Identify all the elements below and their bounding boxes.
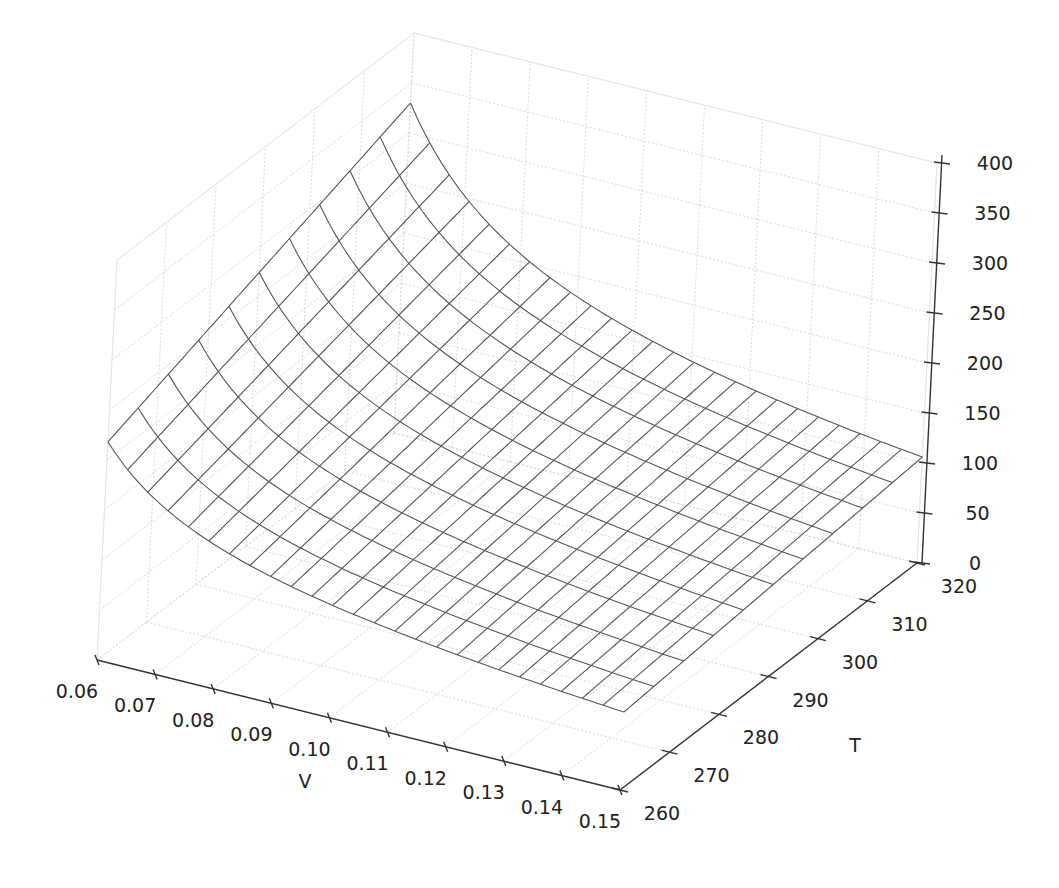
- y-tick: [662, 750, 678, 754]
- x-axis-label: V: [299, 770, 312, 792]
- z-tick-label: 250: [969, 302, 1005, 324]
- y-tick-label: 300: [842, 651, 878, 673]
- sidewall-gridline: [115, 83, 412, 310]
- y-tick: [860, 599, 876, 603]
- z-tick-label: 150: [964, 402, 1000, 424]
- surface-plot-3d: 0.060.070.080.090.100.110.120.130.140.15…: [0, 0, 1059, 888]
- z-tick: [919, 462, 935, 464]
- z-tick-label: 350: [974, 202, 1010, 224]
- z-tick-label: 400: [977, 152, 1013, 174]
- z-tick-label: 0: [969, 552, 981, 574]
- y-tick: [711, 712, 727, 716]
- z-tick: [917, 512, 933, 514]
- wire-constant-t: [199, 340, 714, 635]
- x-tick-label: 0.14: [521, 796, 563, 818]
- wire-constant-t: [229, 306, 743, 610]
- wireframe-surface: [108, 103, 922, 712]
- z-tick-label: 200: [967, 352, 1003, 374]
- z-tick: [929, 262, 945, 264]
- z-tick: [932, 212, 948, 214]
- floor-gridline: [562, 549, 859, 776]
- x-tick-label: 0.12: [405, 767, 447, 789]
- floor-gridline: [345, 471, 868, 601]
- backwall-gridline: [626, 91, 646, 491]
- y-tick-label: 270: [693, 764, 729, 786]
- floor-gridline: [196, 584, 719, 714]
- backwall-gridline: [399, 333, 922, 463]
- y-tick-label: 310: [891, 613, 927, 635]
- backwall-gridline: [510, 62, 530, 462]
- backwall-gridline: [743, 120, 763, 520]
- z-tick: [924, 362, 940, 364]
- x-tick-label: 0.09: [230, 723, 272, 745]
- y-tick: [761, 675, 777, 679]
- backwall-gridline: [402, 283, 925, 413]
- backwall-gridline: [801, 134, 821, 534]
- backwall-gridline: [397, 383, 920, 513]
- floor-gridline: [147, 622, 670, 752]
- sidewall-gridline: [345, 71, 365, 471]
- pane-edge: [97, 260, 117, 660]
- pane-edge: [117, 33, 414, 260]
- y-tick: [810, 637, 826, 641]
- floor-gridline: [446, 520, 743, 747]
- x-tick-label: 0.10: [288, 738, 330, 760]
- z-tick: [934, 162, 950, 164]
- floor-gridline: [271, 476, 568, 703]
- sidewall-gridline: [246, 147, 266, 547]
- wire-constant-t: [259, 272, 773, 584]
- floor-gridline: [329, 491, 626, 718]
- x-tick-label: 0.11: [346, 752, 388, 774]
- z-axis-line: [922, 155, 942, 563]
- sidewall-gridline: [147, 222, 167, 622]
- z-tick-label: 50: [965, 502, 989, 524]
- y-tick-label: 320: [941, 575, 977, 597]
- floor-gridline: [213, 462, 510, 689]
- backwall-gridline: [452, 47, 472, 447]
- backwall-gridline: [407, 183, 930, 313]
- z-tick: [927, 312, 943, 314]
- y-tick-label: 280: [743, 726, 779, 748]
- backwall-gridline: [409, 133, 932, 263]
- y-tick-label: 260: [644, 802, 680, 824]
- pane-edge: [414, 33, 937, 163]
- y-axis-label: T: [848, 734, 861, 756]
- x-tick-label: 0.07: [114, 694, 156, 716]
- z-tick-label: 300: [972, 252, 1008, 274]
- z-tick: [922, 412, 938, 414]
- x-tick-label: 0.08: [172, 709, 214, 731]
- x-tick-label: 0.13: [463, 781, 505, 803]
- y-tick-label: 290: [792, 689, 828, 711]
- wire-constant-t: [411, 103, 923, 457]
- wire-constant-t: [168, 374, 683, 661]
- backwall-gridline: [412, 83, 935, 213]
- z-tick-label: 100: [962, 452, 998, 474]
- backwall-gridline: [859, 149, 879, 549]
- x-tick-label: 0.06: [56, 680, 98, 702]
- x-tick-label: 0.15: [579, 810, 621, 832]
- backwall-gridline: [404, 233, 927, 363]
